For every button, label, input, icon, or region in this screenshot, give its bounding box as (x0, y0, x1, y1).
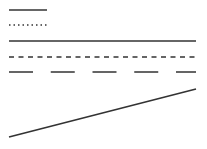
diagonal-line (9, 89, 196, 137)
line-samples-canvas (0, 0, 207, 149)
